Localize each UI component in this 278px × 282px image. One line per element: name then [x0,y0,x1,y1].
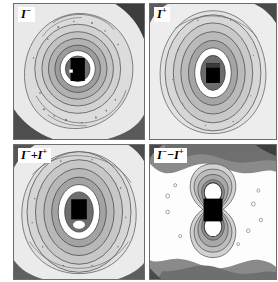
panel-i-minus[interactable]: I− [13,3,145,140]
panel-i-minus-label: I− [18,7,35,22]
panel-difference-label: I−−I+ [154,148,187,163]
panel-i-minus-plot [14,4,144,139]
panel-sum-plot [14,145,144,279]
panel-sum-label: I−+I+ [18,148,51,163]
panel-grid: I− [0,0,278,282]
panel-difference[interactable]: I−−I+ [149,144,277,280]
panel-i-plus-plot [150,4,276,139]
panel-i-plus-label: I+ [154,7,170,22]
panel-difference-plot [150,145,276,279]
panel-i-plus[interactable]: I+ [149,3,277,140]
figure-root: I− [0,0,278,282]
panel-sum[interactable]: I−+I+ [13,144,145,280]
